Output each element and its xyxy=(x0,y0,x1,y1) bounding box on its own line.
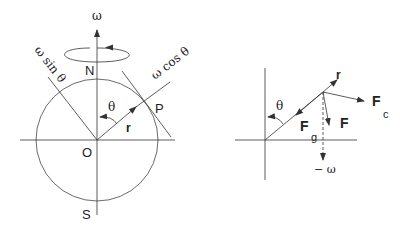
earth-diagram: ω N S O P θ r ω sin θ ω cos θ xyxy=(20,9,192,222)
omega-cos-line xyxy=(136,82,170,107)
omega-sin-line xyxy=(48,77,97,140)
fc-label: F xyxy=(372,93,381,109)
origin-label: O xyxy=(82,145,92,160)
fc-subscript: c xyxy=(383,108,389,120)
fg-label: F xyxy=(300,118,309,134)
force-diagram: θ r F c F g F − ω xyxy=(235,68,389,180)
omega-sin-label: ω sin θ xyxy=(32,43,69,85)
omega-cos-label: ω cos θ xyxy=(148,44,192,83)
f-vector xyxy=(323,92,329,125)
point-label: P xyxy=(155,101,164,116)
fg-subscript: g xyxy=(311,131,317,143)
neg-omega-label: − ω xyxy=(314,163,336,176)
fc-vector xyxy=(323,92,364,101)
theta-label: θ xyxy=(276,99,283,113)
rotation-diagram: ω N S O P θ r ω sin θ ω cos θ θ r F c F … xyxy=(0,0,401,232)
theta-arc xyxy=(268,117,283,124)
r-vector xyxy=(323,80,337,92)
north-label: N xyxy=(85,63,94,78)
south-label: S xyxy=(82,207,91,222)
r-label: r xyxy=(126,121,131,135)
theta-arc xyxy=(100,117,117,124)
omega-label: ω xyxy=(92,9,102,23)
f-label: F xyxy=(340,115,349,131)
theta-label: θ xyxy=(108,100,115,114)
r-label: r xyxy=(336,68,341,82)
fg-vector xyxy=(296,92,323,115)
